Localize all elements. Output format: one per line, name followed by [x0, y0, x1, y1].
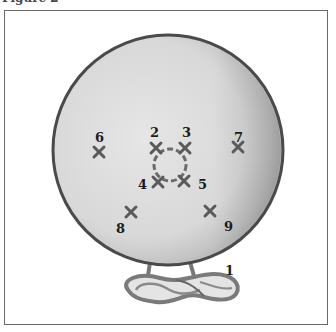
label-2: 2	[150, 125, 159, 140]
label-4: 4	[138, 177, 147, 192]
label-6: 6	[95, 130, 104, 145]
knot-base	[126, 262, 238, 302]
label-8: 8	[116, 221, 125, 236]
label-5: 5	[198, 177, 207, 192]
diagram-canvas: 1 2 3 4 5 6 7 8 9	[0, 0, 336, 332]
label-9: 9	[224, 219, 233, 234]
label-1: 1	[225, 263, 234, 278]
label-7: 7	[234, 130, 243, 145]
label-3: 3	[182, 125, 191, 140]
